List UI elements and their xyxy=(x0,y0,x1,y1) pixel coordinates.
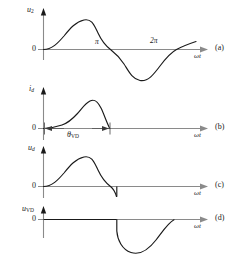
panel-d-group xyxy=(38,206,208,253)
panel-b-y-axis-sub: d xyxy=(31,87,34,93)
panel-a-zero-label: 0 xyxy=(32,44,36,53)
panel-d-zero-label: 0 xyxy=(32,214,36,223)
panel-c-zero-label: 0 xyxy=(32,181,36,190)
panel-b-x-arrowhead xyxy=(200,126,208,132)
panel-c-y-axis-sub: d xyxy=(32,146,35,152)
panel-b-group xyxy=(38,87,208,140)
panel-c-x-axis-label: ωt xyxy=(194,189,201,197)
theta-vd-label: θVD xyxy=(67,130,79,139)
panel-a-y-axis-sub: 2 xyxy=(31,8,34,14)
panel-d-id: (d) xyxy=(215,213,224,222)
panel-b-x-axis-label: ωt xyxy=(194,131,201,139)
panel-a-y-axis-label: u2 xyxy=(27,5,34,14)
panel-a-x-axis-label: ωt xyxy=(194,52,201,60)
panel-a-curve-u2 xyxy=(44,20,197,81)
panel-a-x-arrowhead xyxy=(200,47,208,53)
panel-a-group xyxy=(38,8,208,81)
panel-d-x-axis-label: ωt xyxy=(194,222,201,230)
panel-c-y-arrowhead xyxy=(41,146,46,154)
theta-vd-right-arrowhead xyxy=(102,126,109,131)
panel-a-tick-2pi: 2π xyxy=(150,36,158,45)
panel-d-y-axis-sub: VD xyxy=(26,207,34,213)
theta-vd-left-arrowhead xyxy=(45,126,52,131)
panel-b-id: (b) xyxy=(215,122,224,131)
panel-a-id: (a) xyxy=(215,43,224,52)
panel-d-x-arrowhead xyxy=(200,217,208,223)
panel-c-group xyxy=(38,146,208,198)
panel-a-y-arrowhead xyxy=(41,8,46,16)
panel-d-curve-uvd xyxy=(117,220,174,254)
panel-b-zero-label: 0 xyxy=(32,123,36,132)
panel-b-y-arrowhead xyxy=(41,87,46,95)
panel-c-x-arrowhead xyxy=(200,184,208,190)
waveform-svg xyxy=(0,0,244,268)
panel-b-curve-id xyxy=(44,100,110,128)
panel-d-y-axis-label: uVD xyxy=(22,204,34,213)
panel-c-id: (c) xyxy=(215,180,224,189)
panel-c-y-axis-label: ud xyxy=(28,143,35,152)
panel-b-y-axis-label: id xyxy=(29,84,34,93)
panel-d-y-arrowhead xyxy=(41,206,46,214)
panel-a-tick-pi: π xyxy=(95,37,99,46)
theta-vd-subscript: VD xyxy=(71,133,79,139)
waveform-figure: u2 0 π 2π ωt (a) id 0 θVD ωt (b) ud 0 ωt… xyxy=(0,0,244,268)
panel-c-curve-ud xyxy=(44,157,117,197)
